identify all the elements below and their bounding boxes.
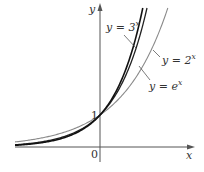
curves [15,8,168,145]
leader-2x [153,50,160,57]
label-3x-base: y = 3 [105,21,135,34]
label-ex-exp: x [178,78,183,87]
y-axis-arrow-icon [98,3,103,11]
label-ex: y = ex [148,78,183,93]
label-ex-base: y = e [148,80,178,93]
y-axis-label: y [88,3,96,16]
leader-ex [139,66,150,80]
label-2x-exp: x [191,52,196,61]
exponential-chart: y x 0 1 y = 3x y = 2x y = ex [0,0,204,172]
label-2x-base: y = 2 [161,54,191,67]
x-axis-label: x [186,149,193,162]
origin-label: 0 [91,148,98,161]
label-3x: y = 3x [105,19,140,34]
label-2x: y = 2x [161,52,196,67]
y-tick-label-1: 1 [91,109,98,122]
